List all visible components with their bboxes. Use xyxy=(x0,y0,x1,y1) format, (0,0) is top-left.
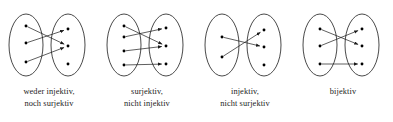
domain-element-dot xyxy=(25,42,28,45)
codomain-element-dot xyxy=(361,63,364,66)
mapping-arrow xyxy=(28,30,64,42)
mapping-arrow xyxy=(27,27,64,45)
caption-line: nicht surjektiv xyxy=(196,98,294,110)
panel-surjektiv-nicht-injektiv: surjektiv, nicht injektiv xyxy=(98,0,196,122)
diagram-canvas xyxy=(196,2,294,84)
venn-diagram-injektiv-nicht-surjektiv xyxy=(196,2,294,84)
mapping-arrow xyxy=(321,31,358,46)
codomain-element-dot xyxy=(165,63,168,66)
function-properties-figure: weder injektiv, noch surjektiv surjektiv… xyxy=(0,0,393,122)
domain-element-dot xyxy=(123,36,126,39)
domain-element-dot xyxy=(319,63,322,66)
caption-injektiv-nicht-surjektiv: injektiv, nicht surjektiv xyxy=(196,86,294,109)
codomain-ellipse xyxy=(247,14,281,76)
domain-ellipse xyxy=(9,14,43,76)
caption-line: bijektiv xyxy=(294,86,392,98)
mapping-arrow xyxy=(223,32,260,56)
mapping-arrow xyxy=(126,46,162,50)
domain-element-dot xyxy=(123,25,126,28)
codomain-element-dot xyxy=(165,27,168,30)
panel-weder-injektiv-noch-surjektiv: weder injektiv, noch surjektiv xyxy=(0,0,98,122)
mapping-arrow xyxy=(321,30,358,45)
diagram-canvas xyxy=(0,2,98,84)
diagram-canvas xyxy=(98,2,196,84)
caption-line: nicht injektiv xyxy=(98,98,196,110)
domain-element-dot xyxy=(123,50,126,53)
venn-diagram-weder-injektiv-noch-surjektiv xyxy=(0,2,98,84)
diagram-canvas xyxy=(294,2,392,84)
domain-ellipse xyxy=(205,14,239,76)
panel-injektiv-nicht-surjektiv: injektiv, nicht surjektiv xyxy=(196,0,294,122)
mapping-arrow xyxy=(126,64,162,65)
caption-bijektiv: bijektiv xyxy=(294,86,392,98)
domain-ellipse xyxy=(107,14,141,76)
codomain-element-dot xyxy=(361,28,364,31)
panel-bijektiv: bijektiv xyxy=(294,0,392,122)
caption-line: weder injektiv, xyxy=(0,86,98,98)
codomain-element-dot xyxy=(67,63,70,66)
caption-surjektiv-nicht-injektiv: surjektiv, nicht injektiv xyxy=(98,86,196,109)
caption-line: noch surjektiv xyxy=(0,98,98,110)
codomain-element-dot xyxy=(67,45,70,48)
codomain-element-dot xyxy=(263,29,266,32)
mapping-arrow xyxy=(27,47,64,61)
domain-element-dot xyxy=(25,61,28,64)
caption-weder-injektiv-noch-surjektiv: weder injektiv, noch surjektiv xyxy=(0,86,98,109)
venn-diagram-surjektiv-nicht-injektiv xyxy=(98,2,196,84)
domain-element-dot xyxy=(319,45,322,48)
caption-line: surjektiv, xyxy=(98,86,196,98)
domain-element-dot xyxy=(25,25,28,28)
codomain-element-dot xyxy=(361,45,364,48)
domain-element-dot xyxy=(221,56,224,59)
caption-line: injektiv, xyxy=(196,86,294,98)
domain-element-dot xyxy=(123,64,126,67)
codomain-element-dot xyxy=(165,45,168,48)
domain-element-dot xyxy=(221,36,224,39)
codomain-element-dot xyxy=(263,46,266,49)
venn-diagram-bijektiv xyxy=(294,2,392,84)
domain-element-dot xyxy=(319,28,322,31)
codomain-element-dot xyxy=(67,28,70,31)
codomain-element-dot xyxy=(263,64,266,67)
